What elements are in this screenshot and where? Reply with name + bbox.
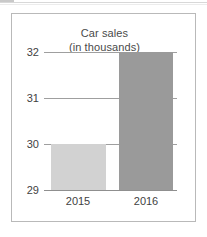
ytick-label-29: 29 bbox=[27, 184, 39, 196]
chart-frame: Car sales (in thousands) 32 31 30 29 201… bbox=[11, 13, 196, 222]
ytick-label-32: 32 bbox=[27, 46, 39, 58]
page-top-rule bbox=[0, 2, 207, 3]
chart-title-main: Car sales bbox=[81, 27, 128, 39]
plot-area: 32 31 30 29 2015 2016 bbox=[44, 52, 177, 191]
ytick-label-31: 31 bbox=[27, 92, 39, 104]
ytick-label-30: 30 bbox=[27, 138, 39, 150]
bar-2015 bbox=[51, 144, 106, 190]
chart-title: Car sales (in thousands) bbox=[12, 26, 197, 54]
axis-baseline bbox=[44, 190, 177, 191]
bar-2016 bbox=[119, 52, 173, 190]
chart-page: Car sales (in thousands) 32 31 30 29 201… bbox=[0, 0, 207, 237]
xtick-label-2016: 2016 bbox=[134, 195, 158, 207]
xtick-label-2015: 2015 bbox=[66, 195, 90, 207]
page-top-rule-secondary bbox=[0, 4, 207, 5]
